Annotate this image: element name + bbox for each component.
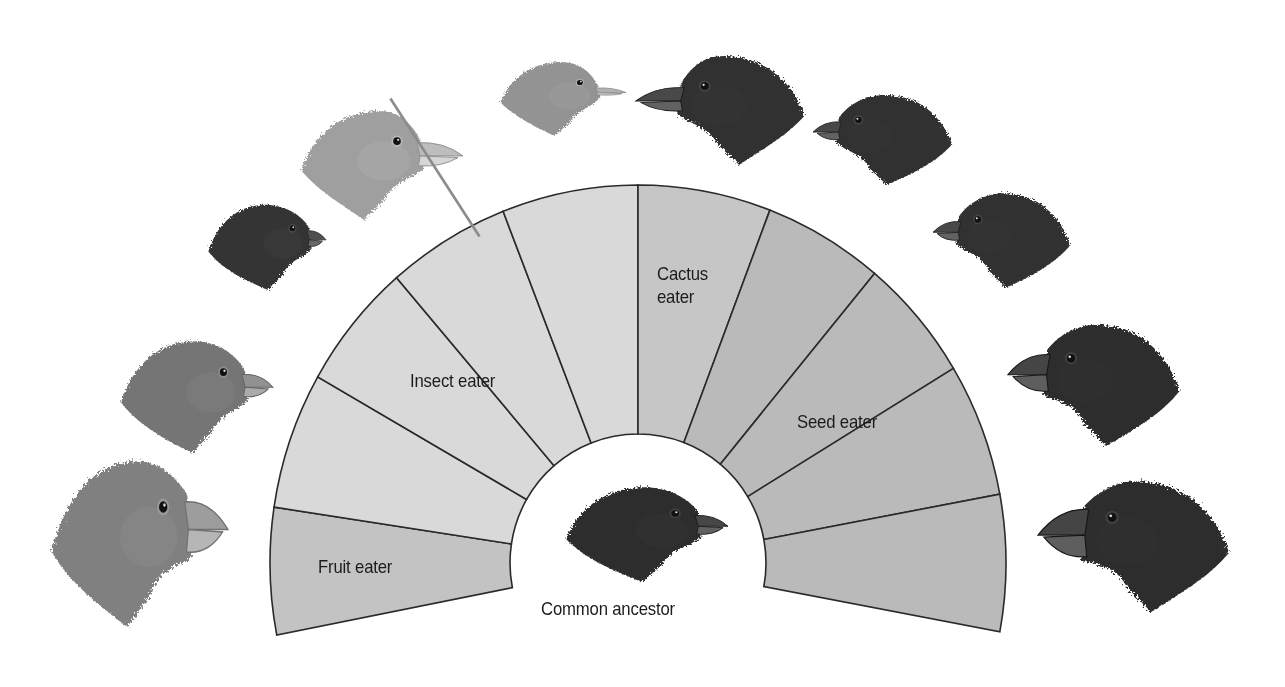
seed-finch-2-icon: [933, 193, 1070, 288]
label-cactus-line1: Cactus: [657, 262, 708, 285]
label-seed-eater: Seed eater: [797, 410, 877, 433]
common-ancestor-finch-icon: [566, 487, 728, 582]
insect-finch-1-icon: [208, 205, 326, 290]
finch-radiation-diagram: Fruit eater Insect eater Cactus eater Se…: [0, 0, 1285, 687]
label-common-ancestor: Common ancestor: [541, 597, 675, 620]
seed-finch-1-icon: [813, 95, 952, 185]
label-fruit-eater: Fruit eater: [318, 555, 392, 578]
seed-finch-4-icon: [1038, 481, 1229, 612]
insect-finch-3-icon: [501, 62, 626, 136]
label-cactus-eater: Cactus eater: [657, 262, 708, 308]
insect-finch-2-tool-using-icon: [301, 98, 479, 236]
label-insect-eater: Insect eater: [410, 369, 495, 392]
cactus-finch-icon: [636, 56, 805, 165]
fruit-finch-2-icon: [121, 341, 273, 453]
finch-heads: [0, 0, 1285, 687]
fruit-finch-1-icon: [52, 461, 228, 627]
seed-finch-3-icon: [1008, 325, 1180, 446]
label-cactus-line2: eater: [657, 285, 708, 308]
